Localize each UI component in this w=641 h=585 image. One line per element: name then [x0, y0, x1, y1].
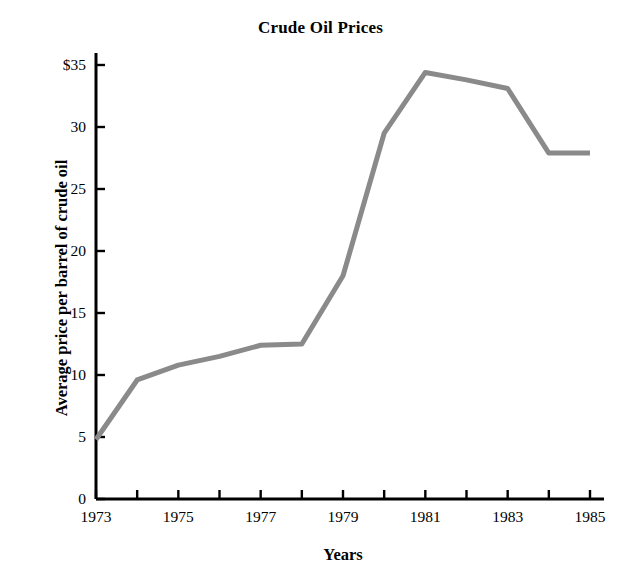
y-tick-label: 5	[40, 428, 86, 446]
data-series-line	[96, 72, 590, 439]
series-line	[96, 72, 590, 439]
x-tick-label: 1979	[328, 508, 359, 526]
y-tick-label: 10	[40, 366, 86, 384]
x-tick-label: 1985	[575, 508, 606, 526]
y-tick-label: 15	[40, 304, 86, 322]
x-tick-label: 1973	[81, 508, 112, 526]
y-tick-label: $35	[40, 56, 86, 74]
x-tick-label: 1983	[492, 508, 523, 526]
x-tick-label: 1975	[163, 508, 194, 526]
x-tick-label: 1977	[245, 508, 276, 526]
chart-figure: Crude Oil Prices Average price per barre…	[0, 0, 641, 585]
y-tick-label: 25	[40, 180, 86, 198]
plot-area	[0, 0, 641, 585]
axis-ticks	[96, 65, 590, 499]
y-tick-label: 30	[40, 118, 86, 136]
y-tick-label: 20	[40, 242, 86, 260]
y-tick-label: 0	[40, 490, 86, 508]
x-tick-label: 1981	[410, 508, 441, 526]
